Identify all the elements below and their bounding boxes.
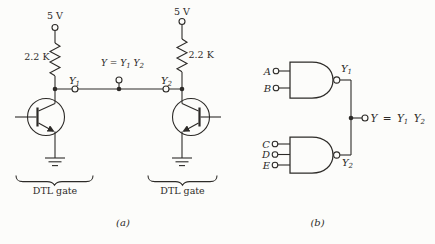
panel-b-caption: (b): [310, 217, 324, 228]
output-equation-label: Y = Y1 Y2: [101, 58, 144, 70]
output-equation-label: Y = Y1 Y2: [371, 112, 426, 127]
transistor-left: [15, 89, 65, 166]
transistor-left-emitter-arrow-icon: [39, 123, 54, 131]
input-c-label: C: [262, 139, 270, 150]
resistor-right-label: 2.2 K: [189, 49, 215, 60]
nand-gate-2-bubble-icon: [334, 152, 340, 158]
supply-right-terminal-icon: [179, 19, 185, 25]
wired-and-connection: Y = Y1 Y2: [340, 80, 426, 155]
ground-right-icon: [172, 158, 192, 166]
input-d-terminal-icon: [272, 152, 278, 158]
ground-left-icon: [45, 158, 65, 166]
wired-output-bus: Y1 Y2 Y = Y1 Y2: [53, 58, 185, 93]
gate1-output-label: Y1: [341, 63, 352, 77]
nand-gate-1-body-icon: [290, 62, 333, 98]
dtl-gate-caption-left: DTL gate: [33, 185, 78, 196]
output-terminal-icon: [362, 115, 368, 121]
supply-right: 5 V 2.2 K: [174, 6, 215, 89]
supply-left: 5 V 2.2 K: [24, 10, 63, 89]
dtl-gate-caption-right: DTL gate: [160, 185, 205, 196]
transistor-right: [172, 89, 221, 166]
y2-node-label: Y2: [161, 75, 173, 89]
panel-a: 5 V 2.2 K 5 V 2.2 K Y1 Y2: [15, 6, 221, 228]
output-terminal-icon: [116, 77, 122, 83]
input-e-label: E: [262, 160, 271, 171]
resistor-left-icon: [50, 43, 60, 76]
supply-right-label: 5 V: [174, 6, 190, 17]
resistor-left-label: 2.2 K: [24, 51, 50, 62]
panel-a-caption: (a): [116, 217, 130, 228]
input-b-terminal-icon: [273, 85, 279, 91]
supply-left-terminal-icon: [52, 25, 58, 31]
nand-gate-2-body-icon: [290, 137, 333, 173]
gate2-output-label: Y2: [342, 157, 354, 171]
supply-left-label: 5 V: [47, 10, 63, 21]
nand-gate-2: C D E Y2: [261, 137, 354, 173]
input-c-terminal-icon: [272, 141, 278, 147]
input-a-label: A: [263, 66, 271, 77]
nand-gate-1: A B Y1: [263, 62, 352, 98]
input-b-label: B: [263, 83, 271, 94]
transistor-right-collector: [182, 104, 199, 112]
resistor-right-icon: [177, 39, 187, 72]
input-e-terminal-icon: [272, 162, 278, 168]
transistor-right-emitter-arrow-icon: [184, 123, 199, 131]
input-a-terminal-icon: [273, 68, 279, 74]
circuit-figure: 5 V 2.2 K 5 V 2.2 K Y1 Y2: [0, 0, 435, 244]
transistor-left-collector: [39, 104, 56, 112]
input-d-label: D: [261, 149, 270, 160]
panel-b: A B Y1 C D E Y2: [261, 62, 426, 228]
nand-gate-1-bubble-icon: [334, 77, 340, 83]
